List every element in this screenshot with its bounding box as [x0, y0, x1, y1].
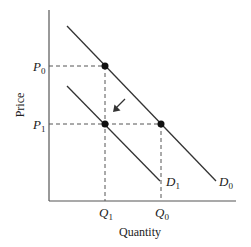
q0-label: Q0 — [155, 205, 169, 222]
p1-label: P1 — [32, 117, 45, 134]
y-axis-title: Price — [13, 93, 27, 118]
d0-label: D0 — [218, 174, 233, 191]
point-q0-p1 — [158, 121, 165, 128]
demand-curve-d1 — [67, 86, 160, 181]
point-q1-p0 — [102, 63, 109, 70]
demand-shift-diagram: P0 P1 Q1 Q0 D1 D0 Quantity Price — [0, 0, 251, 247]
d1-label: D1 — [165, 174, 180, 191]
shift-arrow-icon — [113, 99, 125, 112]
x-axis-title: Quantity — [119, 225, 161, 239]
demand-curve-d0 — [67, 26, 216, 181]
point-q1-p1 — [102, 121, 109, 128]
q1-label: Q1 — [99, 205, 113, 222]
p0-label: P0 — [32, 59, 46, 76]
